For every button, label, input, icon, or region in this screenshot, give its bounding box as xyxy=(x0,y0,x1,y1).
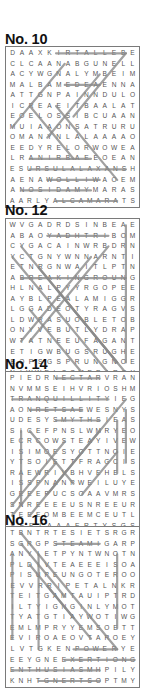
grid-letter[interactable]: L xyxy=(8,315,17,326)
grid-letter[interactable]: A xyxy=(94,633,103,644)
grid-letter[interactable]: W xyxy=(51,436,60,447)
grid-letter[interactable]: E xyxy=(51,570,60,581)
grid-letter[interactable]: O xyxy=(8,325,17,336)
grid-letter[interactable]: W xyxy=(91,644,100,655)
grid-letter[interactable]: R xyxy=(103,196,112,207)
grid-letter[interactable]: M xyxy=(60,415,69,426)
grid-letter[interactable]: O xyxy=(42,447,51,458)
grid-letter[interactable]: A xyxy=(91,80,100,91)
grid-letter[interactable]: G xyxy=(34,655,43,666)
grid-letter[interactable]: G xyxy=(36,644,45,655)
grid-letter[interactable]: N xyxy=(109,357,118,368)
grid-letter[interactable]: W xyxy=(91,175,100,186)
grid-letter[interactable]: N xyxy=(119,80,128,91)
grid-letter[interactable]: A xyxy=(85,373,94,384)
grid-letter[interactable]: T xyxy=(8,612,17,623)
grid-letter[interactable]: B xyxy=(17,528,26,539)
grid-letter[interactable]: E xyxy=(128,347,137,358)
grid-letter[interactable]: A xyxy=(128,143,137,154)
grid-letter[interactable]: E xyxy=(119,283,128,294)
grid-letter[interactable]: O xyxy=(17,405,26,416)
grid-letter[interactable]: R xyxy=(82,283,91,294)
grid-letter[interactable]: A xyxy=(85,489,94,500)
grid-letter[interactable]: A xyxy=(51,591,60,602)
grid-letter[interactable]: L xyxy=(94,602,103,613)
grid-letter[interactable]: E xyxy=(26,111,35,122)
grid-letter[interactable]: H xyxy=(120,384,129,395)
grid-letter[interactable]: W xyxy=(45,175,54,186)
grid-letter[interactable]: R xyxy=(91,304,100,315)
grid-letter[interactable]: M xyxy=(73,185,82,196)
grid-letter[interactable]: T xyxy=(109,315,118,326)
grid-letter[interactable]: N xyxy=(42,655,51,666)
grid-letter[interactable]: Y xyxy=(17,612,26,623)
grid-letter[interactable]: L xyxy=(82,132,91,143)
grid-letter[interactable]: G xyxy=(128,394,137,405)
grid-letter[interactable]: Y xyxy=(82,69,91,80)
grid-letter[interactable]: P xyxy=(103,665,112,676)
grid-letter[interactable]: U xyxy=(60,570,69,581)
grid-letter[interactable]: B xyxy=(63,153,72,164)
grid-letter[interactable]: L xyxy=(77,394,86,405)
grid-letter[interactable]: I xyxy=(111,394,120,405)
grid-letter[interactable]: R xyxy=(94,373,103,384)
grid-letter[interactable]: N xyxy=(51,373,60,384)
grid-letter[interactable]: T xyxy=(120,510,129,521)
grid-letter[interactable]: G xyxy=(17,304,26,315)
grid-letter[interactable]: F xyxy=(82,336,91,347)
grid-letter[interactable]: R xyxy=(17,153,26,164)
grid-letter[interactable]: C xyxy=(111,457,120,468)
grid-letter[interactable]: N xyxy=(91,90,100,101)
grid-letter[interactable]: S xyxy=(54,357,63,368)
grid-letter[interactable]: P xyxy=(42,570,51,581)
grid-letter[interactable]: T xyxy=(25,602,34,613)
grid-letter[interactable]: A xyxy=(73,153,82,164)
grid-letter[interactable]: E xyxy=(51,384,60,395)
grid-letter[interactable]: W xyxy=(63,252,72,263)
grid-letter[interactable]: A xyxy=(8,273,17,284)
grid-letter[interactable]: S xyxy=(111,560,120,571)
grid-letter[interactable]: P xyxy=(68,478,77,489)
grid-letter[interactable]: A xyxy=(68,164,77,175)
grid-letter[interactable]: S xyxy=(94,415,103,426)
grid-letter[interactable]: R xyxy=(73,357,82,368)
grid-letter[interactable]: X xyxy=(68,655,77,666)
grid-letter[interactable]: T xyxy=(73,304,82,315)
grid-letter[interactable]: U xyxy=(91,59,100,70)
grid-letter[interactable]: A xyxy=(77,196,86,207)
grid-letter[interactable]: R xyxy=(128,500,137,511)
grid-letter[interactable]: E xyxy=(42,405,51,416)
grid-letter[interactable]: G xyxy=(119,294,128,305)
grid-letter[interactable]: A xyxy=(8,175,17,186)
grid-letter[interactable]: E xyxy=(85,478,94,489)
grid-letter[interactable]: T xyxy=(111,676,120,687)
grid-letter[interactable]: M xyxy=(8,80,17,91)
grid-letter[interactable]: M xyxy=(85,196,94,207)
grid-letter[interactable]: M xyxy=(128,231,137,242)
grid-letter[interactable]: G xyxy=(109,294,118,305)
grid-letter[interactable]: C xyxy=(94,510,103,521)
grid-letter[interactable]: C xyxy=(17,436,26,447)
grid-letter[interactable]: T xyxy=(73,325,82,336)
grid-letter[interactable]: U xyxy=(111,510,120,521)
grid-letter[interactable]: L xyxy=(17,59,26,70)
grid-letter[interactable]: S xyxy=(128,468,137,479)
grid-letter[interactable]: I xyxy=(8,478,17,489)
grid-letter[interactable]: E xyxy=(120,394,129,405)
grid-letter[interactable]: U xyxy=(51,489,60,500)
grid-letter[interactable]: T xyxy=(85,633,94,644)
grid-letter[interactable]: A xyxy=(25,612,34,623)
grid-letter[interactable]: O xyxy=(100,283,109,294)
grid-letter[interactable]: G xyxy=(77,570,86,581)
grid-letter[interactable]: R xyxy=(25,436,34,447)
grid-letter[interactable]: P xyxy=(42,489,51,500)
grid-letter[interactable]: E xyxy=(54,336,63,347)
grid-letter[interactable]: R xyxy=(68,676,77,687)
grid-letter[interactable]: I xyxy=(26,122,35,133)
grid-letter[interactable]: I xyxy=(63,101,72,112)
grid-letter[interactable]: E xyxy=(54,304,63,315)
grid-letter[interactable]: I xyxy=(45,153,54,164)
grid-letter[interactable]: V xyxy=(103,489,112,500)
grid-letter[interactable]: B xyxy=(60,510,69,521)
grid-letter[interactable]: N xyxy=(45,90,54,101)
